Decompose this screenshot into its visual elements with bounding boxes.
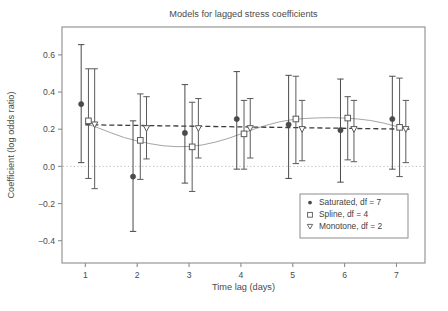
x-axis-tick-label: 6 [342,270,347,280]
marker-filled-circle [338,128,343,133]
marker-filled-circle [79,102,84,107]
y-axis-title: Coefficient (log odds ratio) [6,91,16,198]
y-axis-tick-label: −0.4 [38,236,55,246]
chart-title: Models for lagged stress coefficients [169,9,318,19]
x-axis-tick-label: 5 [290,270,295,280]
y-axis-tick-label: −0.2 [38,199,55,209]
legend-item-label: Saturated, df = 7 [319,197,382,207]
legend-marker-filled-circle [308,201,312,205]
marker-filled-circle [130,174,135,179]
x-axis-tick-label: 2 [135,270,140,280]
marker-open-square [189,144,195,150]
marker-open-square [345,115,351,121]
fit-curve-spline [85,118,409,147]
marker-open-triangle-down [299,127,305,133]
y-axis-tick-label: 0.6 [43,50,55,60]
x-axis-tick-label: 3 [187,270,192,280]
x-axis-tick-label: 4 [239,270,244,280]
marker-open-triangle-down [195,126,201,132]
legend-item-label: Spline, df = 4 [319,209,368,219]
x-axis-title: Time lag (days) [212,282,275,292]
y-axis-tick-label: 0.2 [43,124,55,134]
marker-filled-circle [390,116,395,121]
marker-open-square [397,125,403,131]
marker-open-square [241,131,247,137]
marker-filled-circle [234,116,239,121]
marker-filled-circle [182,130,187,135]
marker-open-square [138,138,144,144]
y-axis-tick-label: 0.4 [43,87,55,97]
marker-open-square [86,118,92,124]
x-axis-tick-label: 1 [83,270,88,280]
chart-canvas: 0.60.40.20.0−0.2−0.41234567Models for la… [0,0,448,311]
marker-open-square [293,116,299,122]
marker-filled-circle [286,122,291,127]
chart-figure: 0.60.40.20.0−0.2−0.41234567Models for la… [0,0,448,311]
x-axis-tick-label: 7 [394,270,399,280]
marker-open-triangle-down [143,126,149,132]
legend-item-label: Monotone, df = 2 [319,221,382,231]
marker-open-triangle-down [351,127,357,133]
marker-open-triangle-down [247,126,253,132]
y-axis-tick-label: 0.0 [43,162,55,172]
legend-marker-open-square [308,212,313,217]
